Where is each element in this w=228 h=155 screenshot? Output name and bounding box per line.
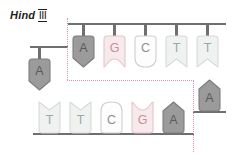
nucleotide-t[interactable]: T [69, 101, 92, 134]
nucleotide-a[interactable]: A [162, 101, 185, 134]
nucleotide-t[interactable]: T [165, 35, 188, 68]
nucleotide-letter: A [35, 65, 43, 78]
enzyme-name-text: Hind [10, 9, 35, 21]
nucleotide-letter: G [138, 114, 148, 127]
cut-horizontal [67, 80, 194, 81]
hindiii-restriction-diagram: HindIII AAGCTTTTCGAA [0, 0, 228, 155]
cut-vertical-right [193, 80, 194, 152]
nucleotide-a[interactable]: A [72, 35, 95, 68]
nucleotide-a[interactable]: A [28, 58, 51, 91]
nucleotide-letter: T [173, 42, 181, 55]
nucleotide-a[interactable]: A [198, 79, 221, 112]
enzyme-numeral: III [38, 9, 47, 22]
nucleotide-g[interactable]: G [131, 101, 154, 134]
nucleotide-letter: C [107, 114, 116, 127]
top-backbone-left [30, 46, 68, 48]
nucleotide-letter: G [110, 42, 120, 55]
nucleotide-letter: T [204, 42, 212, 55]
nucleotide-c[interactable]: C [100, 101, 123, 134]
nucleotide-letter: A [205, 92, 213, 105]
nucleotide-letter: T [77, 114, 85, 127]
nucleotide-g[interactable]: G [103, 35, 126, 68]
nucleotide-letter: T [46, 114, 54, 127]
nucleotide-letter: A [79, 42, 87, 55]
nucleotide-t[interactable]: T [38, 101, 61, 134]
enzyme-name-label: HindIII [10, 9, 47, 22]
nucleotide-letter: A [169, 114, 177, 127]
nucleotide-t[interactable]: T [196, 35, 219, 68]
nucleotide-letter: C [141, 42, 150, 55]
nucleotide-c[interactable]: C [134, 35, 157, 68]
cut-vertical-left [67, 18, 68, 80]
top-backbone-right [68, 23, 226, 25]
